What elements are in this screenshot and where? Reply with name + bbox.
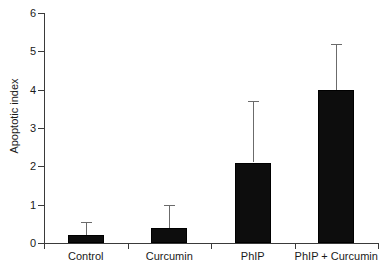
- bar-phip-curcumin: [318, 90, 354, 243]
- x-tick-1: [128, 244, 129, 249]
- y-tick-label-5: 5: [16, 45, 36, 57]
- x-label-phip: PhIP: [241, 250, 265, 262]
- errorbar-whisker-2: [253, 101, 254, 162]
- y-tick-label-6: 6: [16, 7, 36, 19]
- errorbar-whisker-1: [169, 205, 170, 228]
- bar-chart-figure: Apoptotic index 0123456 ControlCurcuminP…: [0, 0, 387, 269]
- bar-curcumin: [151, 228, 187, 243]
- errorbar-cap-2: [248, 101, 259, 102]
- errorbar-whisker-0: [86, 222, 87, 235]
- x-label-phip-curcumin: PhIP + Curcumin: [295, 250, 378, 262]
- y-tick-label-4: 4: [16, 84, 36, 96]
- errorbar-cap-1: [164, 205, 175, 206]
- y-tick-label-2: 2: [16, 160, 36, 172]
- bar-control: [68, 235, 104, 243]
- errorbar-cap-0: [81, 222, 92, 223]
- errorbar-cap-3: [331, 44, 342, 45]
- x-tick-2: [211, 244, 212, 249]
- y-tick-label-1: 1: [16, 199, 36, 211]
- bar-phip: [235, 163, 271, 244]
- x-label-curcumin: Curcumin: [146, 250, 193, 262]
- errorbar-whisker-3: [336, 44, 337, 90]
- x-label-control: Control: [68, 250, 103, 262]
- y-tick-label-0: 0: [16, 237, 36, 249]
- y-axis-title: Apoptotic index: [8, 56, 20, 176]
- y-tick-label-3: 3: [16, 122, 36, 134]
- x-tick-0: [44, 244, 45, 249]
- x-tick-3: [295, 244, 296, 249]
- x-tick-4: [378, 244, 379, 249]
